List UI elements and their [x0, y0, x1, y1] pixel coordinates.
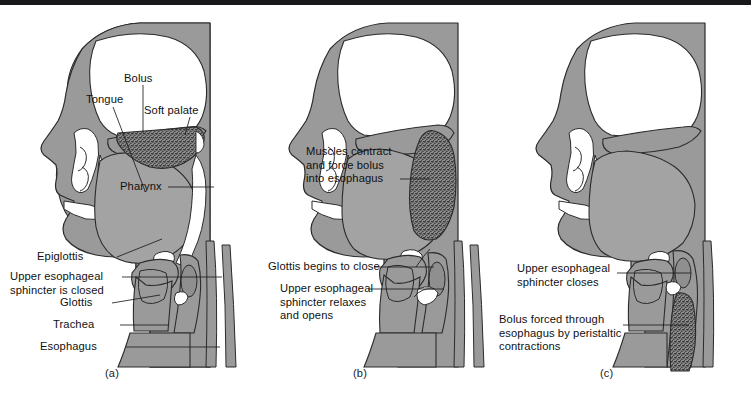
label-bolus: Bolus	[124, 72, 153, 86]
label-tongue: Tongue	[86, 93, 123, 107]
label-esophagus: Esophagus	[40, 340, 97, 354]
panel-b-caption: (b)	[353, 367, 367, 379]
panel-b-illustration	[248, 5, 498, 407]
label-upper-esophageal-sphincter: Upper esophageal sphincter relaxes and o…	[280, 282, 373, 323]
panel-c: Upper esophageal sphincter closes Bolus …	[495, 5, 745, 407]
label-pharynx: Pharynx	[120, 180, 162, 194]
label-epiglottis: Epiglottis	[37, 250, 83, 264]
panel-b: Muscles contract and force bolus into es…	[248, 5, 498, 407]
label-upper-esophageal-sphincter: Upper esophageal sphincter closes	[517, 262, 610, 289]
label-muscles-contract: Muscles contract and force bolus into es…	[306, 145, 392, 186]
panel-c-caption: (c)	[600, 367, 613, 379]
label-trachea: Trachea	[53, 318, 94, 332]
panel-a-illustration	[0, 5, 250, 407]
panel-a: Bolus Tongue Soft palate Pharynx Epiglot…	[0, 5, 250, 407]
panel-a-caption: (a)	[105, 367, 119, 379]
label-glottis-begins-to-close: Glottis begins to close	[268, 260, 380, 274]
label-bolus-forced-through: Bolus forced through esophagus by perist…	[499, 313, 621, 354]
swallowing-diagram-figure: Bolus Tongue Soft palate Pharynx Epiglot…	[0, 0, 751, 407]
label-upper-esophageal-sphincter: Upper esophageal sphincter is closed	[10, 270, 104, 297]
label-glottis: Glottis	[60, 296, 92, 310]
label-soft-palate: Soft palate	[144, 104, 199, 118]
